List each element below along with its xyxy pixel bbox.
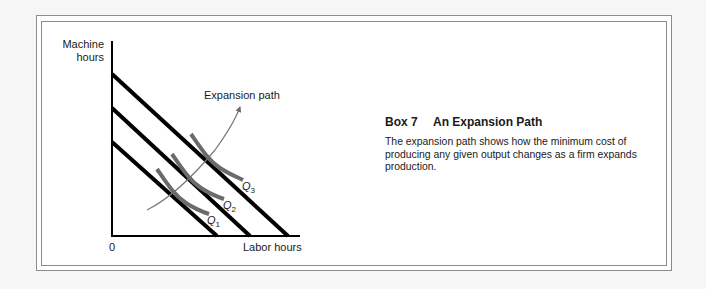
q1-subscript: 1 (216, 220, 220, 229)
q-letter: Q (223, 199, 232, 211)
caption-body: The expansion path shows how the minimum… (385, 136, 655, 174)
isoquant-q3-label: Q3 (242, 180, 255, 197)
isoquant-q2 (172, 154, 224, 199)
q-letter: Q (242, 180, 251, 192)
y-axis-label: Machine hours (52, 38, 104, 64)
expansion-path-label: Expansion path (204, 89, 280, 102)
caption-title: Box 7An Expansion Path (385, 115, 655, 129)
expansion-path-curve (147, 107, 240, 210)
origin-label: 0 (109, 241, 115, 254)
x-axis-label: Labor hours (243, 241, 302, 254)
y-axis-label-line2: hours (52, 51, 104, 64)
y-axis-label-line1: Machine (52, 38, 104, 51)
q3-subscript: 3 (251, 186, 255, 195)
caption-box: Box 7An Expansion Path The expansion pat… (385, 115, 655, 174)
box-title: An Expansion Path (433, 115, 542, 129)
isoquant-q1-label: Q1 (207, 214, 220, 231)
isoquant-q2-label: Q2 (223, 199, 236, 216)
box-number: Box 7 (385, 115, 433, 129)
q-letter: Q (207, 214, 216, 226)
q2-subscript: 2 (232, 205, 236, 214)
